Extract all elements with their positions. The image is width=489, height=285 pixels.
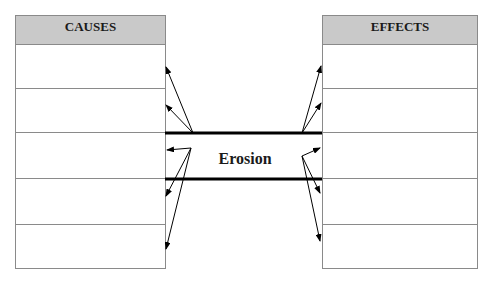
cause-arrows bbox=[166, 67, 193, 249]
effect-arrows bbox=[302, 66, 321, 241]
connector-lines bbox=[0, 0, 489, 285]
center-topic-label: Erosion bbox=[205, 150, 285, 168]
